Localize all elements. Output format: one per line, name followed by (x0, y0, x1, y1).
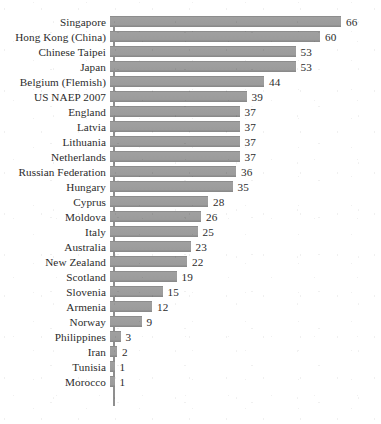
category-label: Moldova (0, 211, 110, 223)
category-label: Morocco (0, 376, 110, 388)
bar (110, 91, 247, 102)
category-label: Chinese Taipei (0, 46, 110, 58)
category-label: Japan (0, 61, 110, 73)
bar-track: 15 (110, 284, 381, 299)
bar-track: 60 (110, 29, 381, 44)
category-label: Netherlands (0, 151, 110, 163)
category-label: Tunisia (0, 361, 110, 373)
bar-value-label: 15 (163, 286, 179, 298)
bar-value-label: 53 (296, 61, 312, 73)
bar-row: Moldova26 (0, 209, 381, 224)
bar-value-label: 1 (115, 361, 126, 373)
bar-track: 35 (110, 179, 381, 194)
category-label: Lithuania (0, 136, 110, 148)
bar (110, 136, 240, 147)
bar (110, 301, 152, 312)
bar-track: 25 (110, 224, 381, 239)
bar-value-label: 25 (198, 226, 214, 238)
bar-value-label: 26 (201, 211, 217, 223)
bar (110, 121, 240, 132)
bar-track: 28 (110, 194, 381, 209)
bar-row: Iran2 (0, 344, 381, 359)
bar (110, 241, 191, 252)
bar-value-label: 53 (296, 46, 312, 58)
bar-track: 19 (110, 269, 381, 284)
bar-value-label: 66 (341, 16, 357, 28)
bar-row: Chinese Taipei53 (0, 44, 381, 59)
bar-track: 26 (110, 209, 381, 224)
bar-track: 39 (110, 89, 381, 104)
bar (110, 331, 121, 342)
category-label: New Zealand (0, 256, 110, 268)
bar-value-label: 19 (177, 271, 193, 283)
bar (110, 46, 296, 57)
category-label: Belgium (Flemish) (0, 76, 110, 88)
bar-track: 36 (110, 164, 381, 179)
category-label: Hungary (0, 181, 110, 193)
bar-row: Italy25 (0, 224, 381, 239)
bar-value-label: 22 (187, 256, 203, 268)
bar-track: 12 (110, 299, 381, 314)
bar-row: Singapore66 (0, 14, 381, 29)
bar (110, 31, 320, 42)
bar-row: Scotland19 (0, 269, 381, 284)
bar-value-label: 39 (247, 91, 263, 103)
bar-track: 53 (110, 59, 381, 74)
category-label: Norway (0, 316, 110, 328)
bar-value-label: 3 (121, 331, 132, 343)
bar-row: Russian Federation36 (0, 164, 381, 179)
bar-row: Lithuania37 (0, 134, 381, 149)
bar-track: 23 (110, 239, 381, 254)
category-label: Philippines (0, 331, 110, 343)
bar-row: Cyprus28 (0, 194, 381, 209)
category-label: Russian Federation (0, 166, 110, 178)
bar-row: Latvia37 (0, 119, 381, 134)
category-label: Scotland (0, 271, 110, 283)
bar-row: Australia23 (0, 239, 381, 254)
bar (110, 181, 233, 192)
bar-track: 3 (110, 329, 381, 344)
bar-value-label: 35 (233, 181, 249, 193)
bar-track: 37 (110, 119, 381, 134)
bar-chart-plot-area: Singapore66Hong Kong (China)60Chinese Ta… (0, 14, 381, 389)
bar-value-label: 1 (115, 376, 126, 388)
bar-value-label: 37 (240, 136, 256, 148)
bar-value-label: 37 (240, 121, 256, 133)
bar (110, 106, 240, 117)
bar-value-label: 60 (320, 31, 336, 43)
bar-track: 2 (110, 344, 381, 359)
bar-track: 22 (110, 254, 381, 269)
bar (110, 256, 187, 267)
bar (110, 211, 201, 222)
bar-row: US NAEP 200739 (0, 89, 381, 104)
bar-row: Armenia12 (0, 299, 381, 314)
bar-value-label: 28 (208, 196, 224, 208)
bar-track: 66 (110, 14, 381, 29)
bar (110, 151, 240, 162)
bar (110, 316, 142, 327)
category-label: Hong Kong (China) (0, 31, 110, 43)
bar-row: Belgium (Flemish)44 (0, 74, 381, 89)
bar-value-label: 36 (236, 166, 252, 178)
bar (110, 286, 163, 297)
category-label: Cyprus (0, 196, 110, 208)
bar (110, 61, 296, 72)
category-label: Latvia (0, 121, 110, 133)
bar (110, 271, 177, 282)
category-label: Australia (0, 241, 110, 253)
bar (110, 166, 236, 177)
bar-track: 53 (110, 44, 381, 59)
bar-row: Norway9 (0, 314, 381, 329)
category-label: England (0, 106, 110, 118)
bar (110, 226, 198, 237)
bar-row: New Zealand22 (0, 254, 381, 269)
bar-value-label: 12 (152, 301, 168, 313)
bar-track: 37 (110, 149, 381, 164)
bar-value-label: 37 (240, 151, 256, 163)
bar (110, 196, 208, 207)
bar-row: Tunisia1 (0, 359, 381, 374)
category-label: Iran (0, 346, 110, 358)
bar-value-label: 23 (191, 241, 207, 253)
bar-row: Japan53 (0, 59, 381, 74)
bar (110, 16, 341, 27)
